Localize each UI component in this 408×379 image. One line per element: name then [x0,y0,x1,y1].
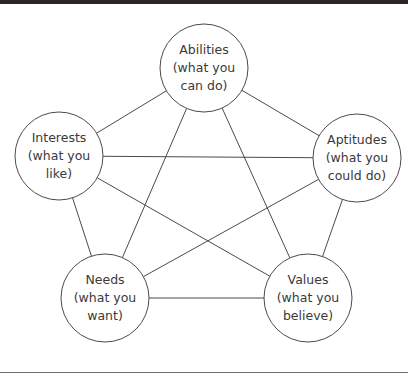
node-subtitle-line: (what you [264,289,352,307]
node-needs: Needs (what you want) [61,271,149,325]
node-title: Values [264,271,352,289]
node-subtitle-line: want) [61,307,149,325]
node-subtitle-line: (what you [160,59,248,77]
node-interests: Interests (what you like) [15,129,103,183]
edge-abilities-aptitudes [242,90,319,135]
node-values: Values (what you believe) [264,271,352,325]
node-subtitle-line: (what you [15,147,103,165]
edge-abilities-interests [97,91,167,133]
edge-aptitudes-values [323,200,343,257]
node-title: Interests [15,129,103,147]
node-subtitle-line: believe) [264,307,352,325]
edge-interests-aptitudes [103,156,313,157]
node-title: Aptitudes [313,131,401,149]
node-title: Needs [61,271,149,289]
edge-abilities-needs [122,108,186,257]
node-subtitle-line: could do) [313,167,401,185]
bottom-rule [0,372,408,373]
node-subtitle-line: like) [15,165,103,183]
node-subtitle-line: (what you [61,289,149,307]
node-abilities: Abilities (what you can do) [160,41,248,95]
node-aptitudes: Aptitudes (what you could do) [313,131,401,185]
edge-interests-needs [73,198,92,256]
node-title: Abilities [160,41,248,59]
edge-abilities-values [222,108,290,258]
node-subtitle-line: (what you [313,149,401,167]
node-subtitle-line: can do) [160,77,248,95]
